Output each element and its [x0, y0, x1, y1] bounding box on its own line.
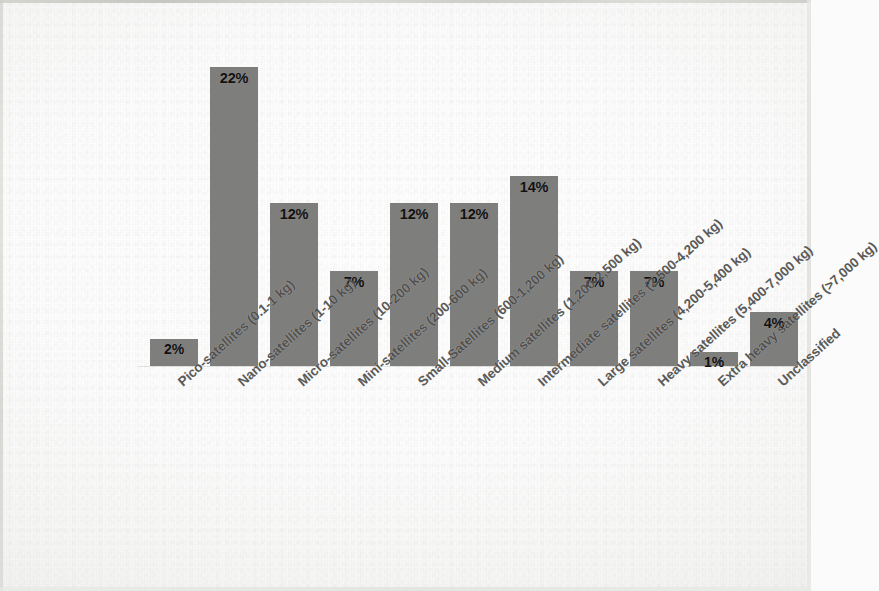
x-axis-label: Unclassified [775, 326, 843, 390]
x-axis-label: Pico-satellites (0.1-1 kg) [175, 277, 297, 389]
x-axis-label: Nano-satellites (1-10 kg) [235, 276, 359, 389]
